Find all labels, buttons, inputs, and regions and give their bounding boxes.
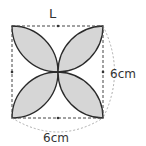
right-dimension-label: 6cm — [110, 67, 136, 81]
petal-top-left — [12, 26, 58, 72]
bottom-dimension-arc — [12, 118, 103, 132]
petal-bottom-left — [12, 72, 58, 118]
petal-bottom-right — [58, 72, 103, 118]
bottom-dimension-label: 6cm — [43, 131, 69, 145]
flower-square-diagram: L 6cm 6cm — [0, 0, 146, 146]
title-letter: L — [49, 6, 57, 21]
petals — [12, 26, 103, 118]
petal-top-right — [58, 26, 103, 72]
